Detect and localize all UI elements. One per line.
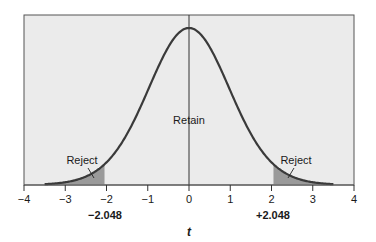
x-tick-label: 1 <box>227 193 233 205</box>
x-tick-label: 3 <box>310 193 316 205</box>
x-tick-label: −3 <box>59 193 72 205</box>
retain-label: Retain <box>173 114 205 126</box>
reject-label-right: Reject <box>280 154 311 166</box>
t-distribution-chart: −4−3−2−101234 Retain Reject Reject −2.04… <box>0 0 376 242</box>
x-tick-label: 0 <box>186 193 192 205</box>
x-tick-label: 4 <box>351 193 357 205</box>
x-axis-title: t <box>187 225 192 239</box>
x-tick-label: 2 <box>268 193 274 205</box>
critical-value-left: −2.048 <box>88 209 122 221</box>
critical-value-right: +2.048 <box>256 209 290 221</box>
x-tick-label: −4 <box>18 193 31 205</box>
x-axis-ticks: −4−3−2−101234 <box>18 185 357 205</box>
x-tick-label: −2 <box>100 193 113 205</box>
reject-label-left: Reject <box>66 154 97 166</box>
x-tick-label: −1 <box>141 193 154 205</box>
